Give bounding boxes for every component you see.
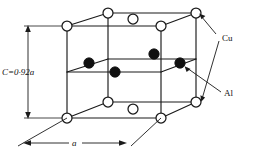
atom-cu-top-back-right [191, 8, 201, 18]
atom-al-mid-right-edge [175, 58, 185, 68]
legend-label-al: Al [224, 88, 233, 98]
atom-group [62, 8, 201, 123]
atom-cu-bottom-back-right [191, 97, 201, 107]
legend-leader-cu-secondary [202, 41, 219, 99]
atom-cu-bottom-face-center [128, 104, 138, 114]
legend-label-cu: Cu [222, 33, 233, 43]
legend-leader-cu [201, 16, 216, 34]
atom-al-mid-left-edge [84, 58, 94, 68]
atom-cu-top-front-left [62, 21, 72, 31]
legend-group: Cu Al [185, 14, 234, 102]
width-guide-right [131, 118, 161, 146]
atom-cu-top-back-left [103, 8, 113, 18]
legend-arrowhead-al [185, 66, 191, 72]
atom-cu-top-front-right [156, 21, 166, 31]
atom-al-mid-back-edge [149, 49, 159, 59]
width-dimension-label: a [72, 138, 77, 148]
legend-leader-al [187, 68, 221, 92]
cell-edge-top-left [67, 13, 108, 26]
atom-cu-top-face-center [128, 14, 138, 24]
height-dimension-label: C=0·92a [2, 67, 35, 77]
height-dimension-group: C=0·92a [2, 25, 62, 119]
width-guide-left [18, 118, 67, 146]
width-arrowhead-right [119, 140, 127, 146]
cell-edge-bottom-left [67, 102, 108, 118]
crystal-structure-figure: C=0·92a a Cu [0, 0, 255, 156]
width-dimension-group: a [18, 118, 161, 149]
cell-edge-bottom-right [161, 102, 196, 118]
atom-cu-bottom-back-left [103, 97, 113, 107]
crystal-structure-diagram: C=0·92a a Cu [0, 0, 255, 156]
atom-al-mid-front-edge [110, 67, 120, 77]
